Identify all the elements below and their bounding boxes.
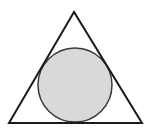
diagram-canvas <box>0 0 148 132</box>
inscribed-circle <box>38 48 112 122</box>
incircle-diagram <box>0 0 148 132</box>
